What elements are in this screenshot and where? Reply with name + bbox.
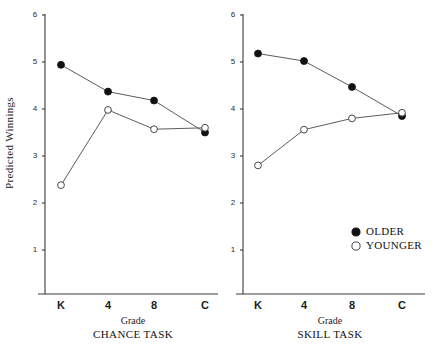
legend: OLDER YOUNGER [352,225,422,251]
data-point-older-k [58,61,65,68]
right-x-axis-title: Grade [318,315,343,326]
data-point-younger-4 [105,107,112,114]
left-panel-title: CHANCE TASK [93,328,173,340]
data-point-younger-k [255,162,262,169]
data-point-younger-c [399,109,406,116]
data-point-younger-8 [349,115,356,122]
legend-older-label: OLDER [366,225,405,237]
right-ytick-1: 1 [231,245,236,254]
right-xtick-k: K [254,299,262,311]
left-ytick-6: 6 [33,10,38,19]
right-older-line [258,54,402,117]
left-xtick-c: C [201,299,209,311]
right-ytick-3: 3 [231,151,236,160]
left-ytick-1: 1 [33,245,38,254]
left-older-line [61,65,205,133]
left-xtick-8: 8 [151,299,157,311]
left-ytick-5: 5 [33,57,38,66]
legend-older-marker-icon [352,228,360,236]
right-younger-points [255,109,406,168]
left-ytick-4: 4 [33,104,38,113]
chart-svg: Predicted Winnings 6 5 4 3 2 1 [0,0,440,345]
right-ytick-2: 2 [231,198,236,207]
right-series-older [255,50,406,120]
left-younger-line [61,110,205,185]
legend-younger-marker-icon [352,242,360,250]
data-point-older-8 [349,83,356,90]
left-series-younger [58,107,209,189]
right-older-points [255,50,406,120]
data-point-older-4 [105,88,112,95]
y-axis-label: Predicted Winnings [3,97,15,189]
right-xtick-4: 4 [301,299,308,311]
panel-skill-task: 6 5 4 3 2 1 K 4 8 C Grade SKILL TASK [231,10,425,340]
left-ytick-3: 3 [33,151,38,160]
left-series-older [58,61,209,136]
right-panel-title: SKILL TASK [297,328,362,340]
data-point-older-k [255,50,262,57]
panel-chance-task: 6 5 4 3 2 1 K 4 8 C Grade CHANCE TASK [33,10,218,340]
right-xtick-c: C [398,299,406,311]
legend-younger-label: YOUNGER [366,239,422,251]
left-xtick-k: K [57,299,65,311]
data-point-younger-k [58,182,65,189]
right-ytick-5: 5 [231,57,236,66]
right-xtick-8: 8 [349,299,355,311]
left-ytick-2: 2 [33,198,38,207]
right-series-younger [255,109,406,168]
left-younger-points [58,107,209,189]
right-ytick-4: 4 [231,104,236,113]
chart-figure: Predicted Winnings 6 5 4 3 2 1 [0,0,440,345]
data-point-younger-8 [151,126,158,133]
data-point-older-8 [151,97,158,104]
left-xtick-4: 4 [105,299,112,311]
data-point-younger-c [202,124,209,131]
data-point-older-4 [301,58,308,65]
data-point-younger-4 [301,126,308,133]
right-younger-line [258,113,402,166]
right-ytick-6: 6 [231,10,236,19]
left-older-points [58,61,209,136]
y-axis-label-text: Predicted Winnings [3,97,15,189]
left-x-axis-title: Grade [121,315,146,326]
